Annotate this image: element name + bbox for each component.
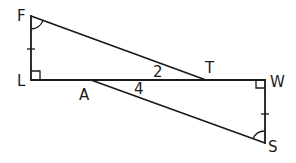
right-angle-mark-L [31,71,40,80]
point-label-L: L [17,72,26,90]
angle-label-2: 2 [153,63,163,81]
geometry-diagram: F L A T W S 2 4 [0,0,296,163]
point-label-W: W [270,73,285,91]
segment-AS [91,80,265,143]
angle-arc-S [253,131,265,139]
right-angle-mark-W [256,80,265,88]
point-label-A: A [79,86,90,104]
angle-label-4: 4 [134,80,144,98]
point-label-T: T [204,59,215,77]
point-label-F: F [17,7,26,25]
angle-arc-F [31,21,43,30]
segment-FT [31,16,206,80]
point-label-S: S [268,138,278,156]
